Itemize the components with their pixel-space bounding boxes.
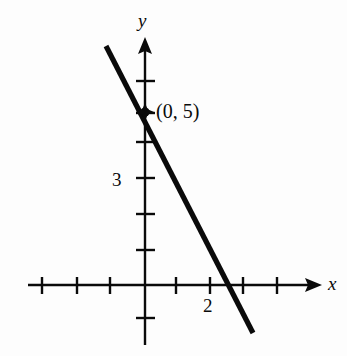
point-annotation-label: (0, 5) <box>156 101 199 121</box>
x-axis-label: x <box>328 274 336 293</box>
coordinate-plane-svg <box>0 0 347 356</box>
y-tick-label-3: 3 <box>112 170 122 189</box>
x-tick-label-2: 2 <box>203 296 213 315</box>
y-axis-label: y <box>138 11 146 30</box>
graph-figure: y x 3 2 (0, 5) <box>0 0 347 356</box>
plotted-line <box>106 46 253 333</box>
